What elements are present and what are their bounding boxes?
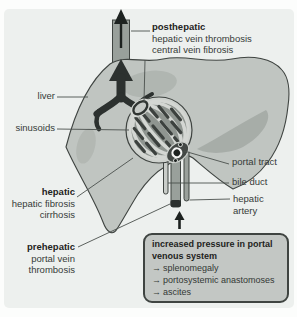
label-hepatic: hepatic hepatic fibrosis cirrhosis [4,186,75,221]
hepatic-artery-line1: hepatic [233,193,264,205]
info-box-title-line1: increased pressure in portal [152,238,280,250]
hepatic-line2: cirrhosis [4,209,75,221]
posthepatic-title: posthepatic [152,21,252,33]
portal-pressure-arrow [175,211,185,229]
figure-portal-hypertension: posthepatic hepatic vein thrombosis cent… [0,0,297,317]
info-box-item: →splenomegaly [152,262,280,274]
hepatic-line1: hepatic fibrosis [4,198,75,210]
label-liver: liver [10,90,55,102]
portal-vein-cap [171,200,182,207]
label-sinusoids: sinusoids [10,122,55,134]
label-prehepatic: prehepatic portal vein thrombosis [4,241,75,276]
arrow-glyph: → [152,275,161,285]
leader-hepatic-artery [190,199,231,200]
prehepatic-line2: thrombosis [4,264,75,276]
hepatic-title: hepatic [4,186,75,198]
label-portal-tract: portal tract [232,156,277,168]
prehepatic-line1: portal vein [4,253,75,265]
posthepatic-line1: hepatic vein thrombosis [152,33,252,45]
info-box-item: →ascites [152,286,280,298]
label-hepatic-artery: hepatic artery [233,193,264,216]
posthepatic-line2: central vein fibrosis [152,44,252,56]
hepatic-artery-line2: artery [233,205,264,217]
prehepatic-title: prehepatic [4,241,75,253]
info-box-item-text: ascites [163,287,191,297]
label-posthepatic: posthepatic hepatic vein thrombosis cent… [152,21,252,56]
label-bile-duct: bile duct [232,176,267,188]
info-box: increased pressure in portal venous syst… [143,233,289,303]
info-box-title-line2: venous system [152,250,280,262]
info-box-item-text: splenomegaly [163,263,219,273]
info-box-item-text: portosystemic anastomoses [163,275,275,285]
arrow-glyph: → [152,263,161,273]
info-box-item: →portosystemic anastomoses [152,274,280,286]
arrow-glyph: → [152,287,161,297]
